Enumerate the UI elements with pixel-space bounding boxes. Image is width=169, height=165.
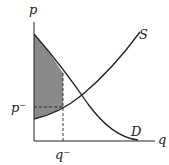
y-axis-label: p xyxy=(29,2,38,17)
supply-demand-diagram: p q S D p⁻ q⁻ xyxy=(0,0,169,165)
q-bar-label: q⁻ xyxy=(55,147,70,162)
x-axis-label: q xyxy=(158,132,166,147)
shaded-surplus-region xyxy=(34,34,63,119)
p-bar-label: p⁻ xyxy=(11,100,26,115)
supply-label: S xyxy=(139,27,148,42)
demand-label: D xyxy=(130,124,142,139)
